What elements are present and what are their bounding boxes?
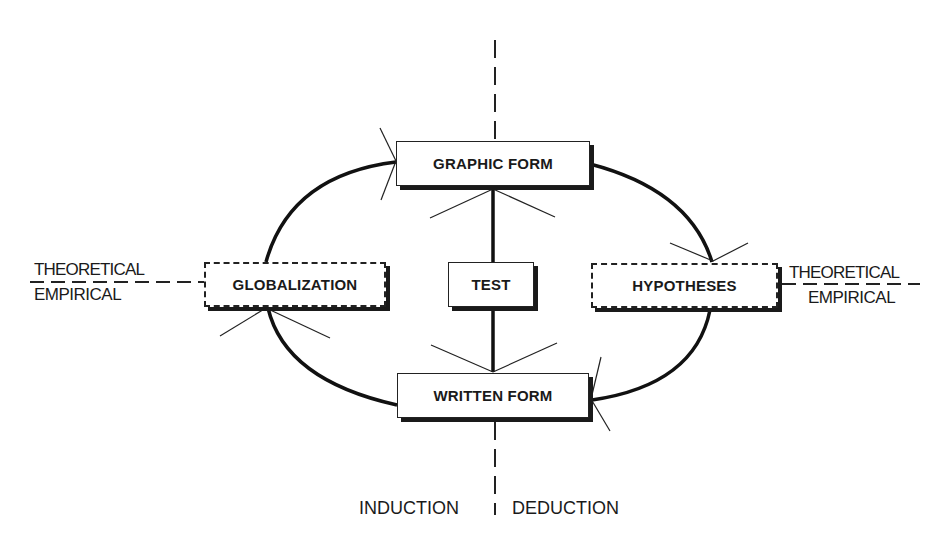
arrowhead-written-right-b bbox=[591, 399, 610, 431]
graphic-form-box: GRAPHIC FORM bbox=[396, 141, 590, 186]
test-box: TEST bbox=[448, 262, 534, 307]
written-form-label: WRITTEN FORM bbox=[433, 387, 552, 404]
hypotheses-box: HYPOTHESES bbox=[591, 263, 778, 308]
arrowhead-graphic-bottom-a bbox=[430, 189, 493, 218]
arrowhead-graphic-bottom-b bbox=[493, 189, 555, 217]
arc-graphic-to-hypotheses bbox=[590, 164, 712, 262]
arrowhead-globalization-bottom-b bbox=[266, 308, 330, 338]
test-label: TEST bbox=[471, 276, 510, 293]
arrowhead-written-top-a bbox=[431, 345, 493, 372]
globalization-box: GLOBALIZATION bbox=[204, 262, 386, 307]
arc-written-to-globalization bbox=[268, 308, 397, 405]
deduction-label: DEDUCTION bbox=[512, 498, 619, 519]
arrowhead-written-top-b bbox=[493, 343, 557, 372]
arrowhead-graphic-left-a bbox=[380, 128, 396, 161]
graphic-form-label: GRAPHIC FORM bbox=[433, 155, 553, 172]
right-theoretical-label: THEORETICAL bbox=[789, 263, 899, 283]
written-form-box: WRITTEN FORM bbox=[397, 373, 589, 418]
left-empirical-label: EMPIRICAL bbox=[34, 285, 121, 305]
hypotheses-label: HYPOTHESES bbox=[632, 277, 737, 294]
induction-label: INDUCTION bbox=[359, 498, 459, 519]
left-theoretical-label: THEORETICAL bbox=[34, 260, 144, 280]
arrowhead-written-right-a bbox=[591, 357, 601, 399]
right-empirical-label: EMPIRICAL bbox=[808, 288, 895, 308]
globalization-label: GLOBALIZATION bbox=[233, 276, 358, 293]
arrowhead-graphic-left-b bbox=[381, 161, 396, 200]
arc-globalization-to-graphic bbox=[266, 162, 396, 262]
arrowhead-hypotheses-top-b bbox=[713, 243, 748, 261]
arrowhead-globalization-bottom-a bbox=[220, 308, 266, 336]
arc-hypotheses-to-written bbox=[592, 310, 710, 400]
